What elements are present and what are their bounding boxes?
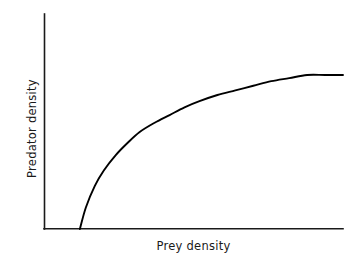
- chart-figure: Predator density Prey density: [0, 0, 358, 257]
- y-axis-label: Predator density: [27, 21, 43, 236]
- axes-group: [44, 14, 343, 229]
- data-series-group: [80, 75, 343, 229]
- plot-canvas: [0, 0, 358, 257]
- x-axis-label: Prey density: [44, 241, 343, 253]
- predator-response-curve: [80, 75, 343, 229]
